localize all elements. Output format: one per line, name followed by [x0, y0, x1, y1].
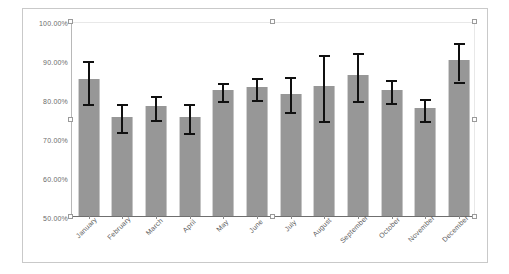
error-bar-line	[323, 55, 325, 121]
error-bar-cap-upper	[151, 96, 162, 98]
error-bar-cap-lower	[117, 132, 128, 134]
error-bar-cap-upper	[454, 43, 465, 45]
bar[interactable]	[247, 87, 268, 216]
bar-group[interactable]: January	[72, 23, 106, 216]
bar-group[interactable]: June	[240, 23, 274, 216]
bar[interactable]	[146, 106, 167, 216]
y-axis-tick-label: 90.00%	[43, 59, 68, 66]
y-axis-tick-label: 60.00%	[43, 176, 68, 183]
error-bar-cap-lower	[285, 112, 296, 114]
x-axis-tick-label: August	[312, 216, 333, 237]
error-bar-cap-lower	[454, 82, 465, 84]
resize-handle[interactable]	[472, 19, 477, 24]
x-axis-tick-label: November	[407, 214, 436, 243]
error-bar-cap-upper	[252, 78, 263, 80]
error-bar-line	[88, 61, 90, 104]
error-bar-line	[458, 43, 460, 82]
error-bar-line	[189, 104, 191, 133]
bar-group[interactable]: October	[375, 23, 409, 216]
error-bar-cap-lower	[184, 133, 195, 135]
error-bar-cap-upper	[83, 61, 94, 63]
bar-series: JanuaryFebruaryMarchAprilMayJuneJulyAugu…	[72, 23, 474, 216]
error-bar-cap-upper	[285, 77, 296, 79]
x-axis-tick-label: March	[145, 217, 164, 236]
error-bar-line	[391, 80, 393, 102]
error-bar-cap-lower	[151, 120, 162, 122]
resize-handle[interactable]	[270, 19, 275, 24]
x-axis-tick-label: January	[74, 216, 98, 240]
error-bar-cap-upper	[319, 55, 330, 57]
bar-group[interactable]: March	[139, 23, 173, 216]
resize-handle[interactable]	[472, 214, 477, 219]
resize-handle[interactable]	[68, 214, 73, 219]
resize-handle[interactable]	[68, 117, 73, 122]
x-axis-tick-label: June	[248, 218, 264, 234]
error-bar-cap-upper	[353, 53, 364, 55]
error-bar-cap-lower	[353, 101, 364, 103]
bar[interactable]	[415, 108, 436, 216]
bar-group[interactable]: September	[341, 23, 375, 216]
error-bar-cap-upper	[420, 99, 431, 101]
error-bar-line	[121, 104, 123, 132]
x-axis-tick-label: February	[106, 215, 132, 241]
y-axis-tick-label: 100.00%	[39, 20, 68, 27]
bar-group[interactable]: April	[173, 23, 207, 216]
error-bar-cap-lower	[420, 121, 431, 123]
error-bar-line	[222, 83, 224, 101]
error-bar-cap-upper	[386, 80, 397, 82]
bar-group[interactable]: February	[106, 23, 140, 216]
x-axis-tick-label: September	[339, 214, 369, 244]
error-bar-line	[155, 96, 157, 120]
bar[interactable]	[381, 90, 402, 216]
error-bar-cap-upper	[184, 104, 195, 106]
x-axis-tick-label: July	[283, 218, 297, 232]
x-axis-tick-label: May	[215, 218, 230, 233]
plot-wrapper: 100.00%90.00%80.00%70.00%60.00%50.00% Ja…	[23, 9, 487, 262]
x-axis-tick-label: December	[441, 214, 470, 243]
x-axis-tick-label: April	[181, 218, 197, 234]
plot-area: 100.00%90.00%80.00%70.00%60.00%50.00% Ja…	[71, 22, 475, 217]
error-bar-line	[424, 99, 426, 121]
bar-group[interactable]: May	[207, 23, 241, 216]
x-axis-tick-label: October	[377, 216, 401, 240]
error-bar-cap-lower	[218, 101, 229, 103]
error-bar-cap-lower	[252, 100, 263, 102]
error-bar-cap-upper	[117, 104, 128, 106]
y-axis-tick-label: 50.00%	[43, 215, 68, 222]
error-bar-line	[256, 78, 258, 100]
bar[interactable]	[213, 90, 234, 216]
error-bar-cap-lower	[386, 103, 397, 105]
bar-group[interactable]: December	[442, 23, 476, 216]
error-bar-line	[290, 77, 292, 112]
bar-group[interactable]: July	[274, 23, 308, 216]
error-bar-cap-upper	[218, 83, 229, 85]
y-axis-tick-label: 70.00%	[43, 137, 68, 144]
resize-handle[interactable]	[270, 214, 275, 219]
y-axis-tick-label: 80.00%	[43, 98, 68, 105]
resize-handle[interactable]	[68, 19, 73, 24]
bar-group[interactable]: August	[308, 23, 342, 216]
error-bar-cap-lower	[83, 104, 94, 106]
error-bar-line	[357, 53, 359, 101]
resize-handle[interactable]	[472, 117, 477, 122]
error-bar-cap-lower	[319, 121, 330, 123]
bar-group[interactable]: November	[409, 23, 443, 216]
chart-frame[interactable]: 100.00%90.00%80.00%70.00%60.00%50.00% Ja…	[22, 8, 488, 263]
